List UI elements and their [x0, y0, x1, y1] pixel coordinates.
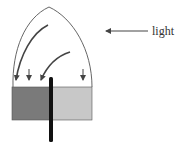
curved-arrow-inner: [41, 52, 70, 80]
coleoptile-tip-outline: [13, 7, 92, 87]
barrier: [49, 77, 53, 142]
light-label: light: [152, 24, 175, 38]
curved-arrow-outer: [16, 25, 48, 80]
phototropism-diagram: light: [0, 0, 180, 152]
agar-block-lit-half: [51, 87, 92, 120]
agar-block-shaded-half: [12, 87, 51, 120]
